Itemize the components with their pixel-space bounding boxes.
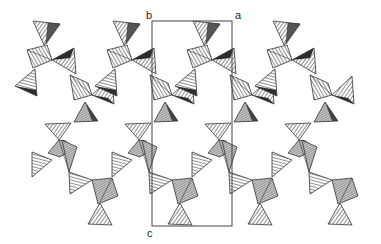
axis-label-c: c [147, 228, 153, 239]
axis-label-a: a [235, 10, 241, 21]
axis-label-b: b [146, 10, 152, 21]
crystal-structure-diagram [0, 0, 381, 244]
tetrahedra-chains [15, 21, 358, 225]
